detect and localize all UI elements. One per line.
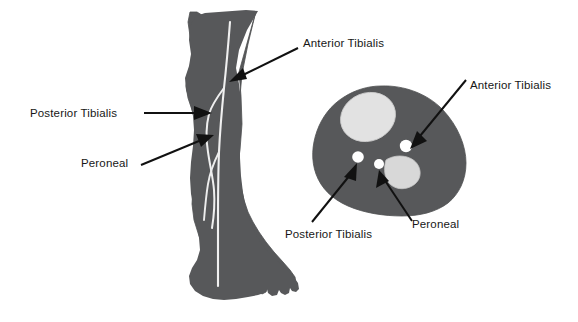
label-cross-anterior-tibialis: Anterior Tibialis bbox=[470, 79, 551, 91]
anterior-tibialis-artery-marker bbox=[400, 140, 412, 152]
label-cross-peroneal: Peroneal bbox=[412, 218, 459, 230]
fibula-bone bbox=[385, 156, 421, 189]
posterior-tibialis-artery-marker bbox=[352, 151, 364, 163]
figure-canvas: Anterior Tibialis Posterior Tibialis Per… bbox=[0, 0, 578, 322]
label-lateral-anterior-tibialis: Anterior Tibialis bbox=[303, 37, 384, 49]
label-cross-posterior-tibialis: Posterior Tibialis bbox=[285, 228, 372, 240]
label-lateral-posterior-tibialis: Posterior Tibialis bbox=[30, 107, 117, 119]
peroneal-artery-marker bbox=[374, 159, 384, 169]
label-lateral-peroneal: Peroneal bbox=[81, 157, 128, 169]
anatomy-figure: Anterior Tibialis Posterior Tibialis Per… bbox=[0, 0, 578, 322]
